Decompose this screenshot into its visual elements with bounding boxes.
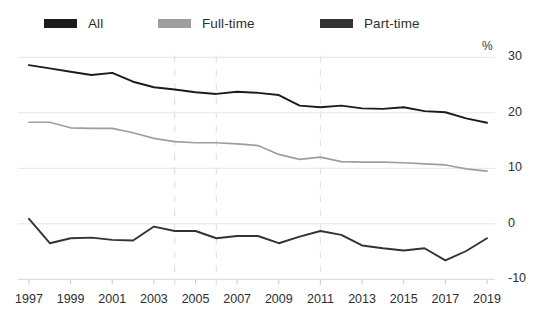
x-axis-tick-label: 2005 [182, 292, 210, 306]
x-axis-tick-label: 2015 [390, 292, 418, 306]
y-axis-unit-label: % [482, 39, 493, 53]
x-axis-tick-label: 1999 [57, 292, 85, 306]
x-axis-tick-label: 2003 [140, 292, 168, 306]
y-axis-tick-label: 0 [508, 216, 515, 230]
x-axis-tick-label: 2007 [223, 292, 251, 306]
x-axis-tick-label: 2019 [473, 292, 501, 306]
y-axis-tick-label: 10 [508, 160, 522, 174]
series-line-all [29, 65, 487, 123]
chart-container: All Full-time Part-time % 3020100-101997… [0, 0, 557, 328]
x-axis-tick-label: 2009 [265, 292, 293, 306]
y-axis-tick-label: -10 [508, 271, 526, 285]
x-axis-tick-label: 2001 [98, 292, 126, 306]
x-axis-tick-label: 2013 [348, 292, 376, 306]
x-axis-tick-label: 2017 [431, 292, 459, 306]
y-axis-tick-label: 20 [508, 105, 522, 119]
x-axis-tick-label: 2011 [307, 292, 334, 306]
y-axis-tick-label: 30 [508, 49, 522, 63]
x-axis-tick-label: 1997 [15, 292, 43, 306]
plot-area [0, 0, 557, 328]
series-line-full-time [29, 122, 487, 171]
series-line-part-time [29, 219, 487, 261]
chart-svg [0, 0, 557, 328]
